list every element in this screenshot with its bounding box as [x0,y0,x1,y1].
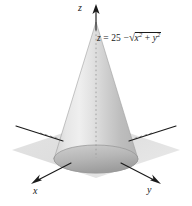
negative-x-axis-line [129,126,176,141]
cone-diagram-canvas [0,0,192,206]
z-axis-label: z [78,3,82,13]
y-axis-label: y [147,185,151,195]
radicand-x-exponent: 2 [139,31,142,38]
negative-y-axis-line [16,126,63,141]
x-axis-label: x [33,186,37,196]
equation-constant: 25 [111,33,121,43]
positive-y-axis-line [121,163,154,180]
equation-label: z = 25 −√x2 + y2 [97,31,161,44]
equation-equals: = [103,33,108,43]
radicand-y-exponent: 2 [157,31,160,38]
equation-lhs: z [97,33,101,43]
radicand: x2 + y2 [135,32,162,43]
positive-x-axis-line [38,163,71,180]
radicand-plus: + [145,33,150,43]
cone-figure: z x y z = 25 −√x2 + y2 [0,0,192,206]
